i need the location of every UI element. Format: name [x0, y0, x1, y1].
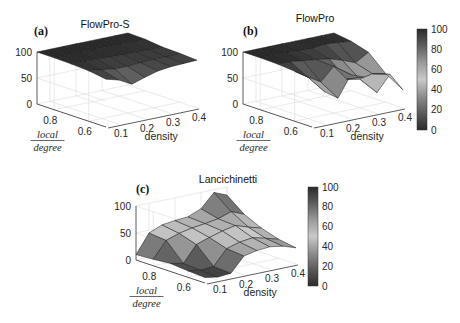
y-axis-label-denominator: degree	[132, 298, 161, 309]
figure: (a) FlowPro-S 0501000.80.60.10.20.30.4de…	[0, 0, 460, 323]
y-axis-label-denominator: degree	[33, 142, 62, 153]
colorbar-tick-label: 100	[431, 24, 448, 35]
z-tick-label: 100	[15, 47, 32, 58]
colorbar-tick-label: 40	[431, 84, 443, 95]
panel-a-title: FlowPro-S	[80, 18, 129, 30]
panel-b-label: (b)	[243, 24, 258, 38]
y-axis-label-denominator: degree	[239, 142, 268, 153]
y-tick-label: 0.6	[78, 126, 92, 137]
colorbar-tick-label: 60	[431, 64, 443, 75]
panel-c-label: (c)	[136, 182, 149, 196]
x-tick-label: 0.1	[320, 128, 334, 139]
z-tick-label: 50	[21, 73, 33, 84]
y-tick-label: 0.6	[284, 126, 298, 137]
colorbar-scale	[417, 29, 427, 130]
colorbar-tick-label: 20	[431, 104, 443, 115]
y-tick-label: 0.8	[142, 271, 156, 282]
panel-b-title: FlowPro	[296, 12, 335, 24]
x-axis-label: density	[351, 130, 385, 142]
y-axis-label-numerator: local	[136, 285, 157, 296]
x-axis-label: density	[244, 286, 278, 298]
panel-b-colorbar: 020406080100	[417, 24, 448, 136]
z-tick-label: 50	[120, 228, 132, 239]
colorbar-scale	[308, 187, 318, 286]
colorbar-tick-label: 0	[322, 281, 328, 292]
panel-c-colorbar: 020406080100	[308, 182, 339, 292]
colorbar-tick-label: 40	[322, 241, 334, 252]
z-tick-label: 0	[232, 99, 238, 110]
panel-c-title: Lancichinetti	[199, 173, 257, 185]
y-axis-label-numerator: local	[243, 129, 264, 140]
x-tick-label: 0.4	[398, 112, 412, 123]
y-tick-label: 0.8	[249, 115, 263, 126]
z-tick-label: 50	[227, 73, 239, 84]
x-tick-label: 0.3	[166, 117, 180, 128]
x-tick-label: 0.1	[114, 128, 128, 139]
z-tick-label: 0	[125, 255, 131, 266]
x-tick-label: 0.3	[372, 117, 386, 128]
colorbar-tick-label: 80	[431, 44, 443, 55]
z-tick-label: 100	[114, 201, 131, 212]
panel-c-surface	[136, 192, 296, 277]
panel-b-flowpro: (b) FlowPro 0501000.80.60.10.20.30.4dens…	[221, 12, 448, 153]
z-tick-label: 0	[26, 99, 32, 110]
colorbar-tick-label: 60	[322, 221, 334, 232]
panel-a-flowpro-s: (a) FlowPro-S 0501000.80.60.10.20.30.4de…	[15, 18, 206, 153]
x-tick-label: 0.4	[192, 112, 206, 123]
panel-c-lancichinetti: (c) Lancichinetti 0501000.80.60.10.20.30…	[114, 173, 339, 309]
x-axis-label: density	[145, 130, 179, 142]
panel-b-surface	[243, 33, 403, 98]
x-tick-label: 0.3	[265, 273, 279, 284]
panel-a-surface	[37, 33, 197, 84]
y-tick-label: 0.6	[177, 282, 191, 293]
x-tick-label: 0.4	[291, 268, 305, 279]
colorbar-tick-label: 80	[322, 201, 334, 212]
colorbar-tick-label: 100	[322, 182, 339, 193]
z-tick-label: 100	[221, 47, 238, 58]
panel-a-label: (a)	[34, 24, 48, 38]
y-tick-label: 0.8	[43, 115, 57, 126]
colorbar-tick-label: 20	[322, 261, 334, 272]
colorbar-tick-label: 0	[431, 125, 437, 136]
x-tick-label: 0.1	[213, 284, 227, 295]
y-axis-label-numerator: local	[37, 129, 58, 140]
